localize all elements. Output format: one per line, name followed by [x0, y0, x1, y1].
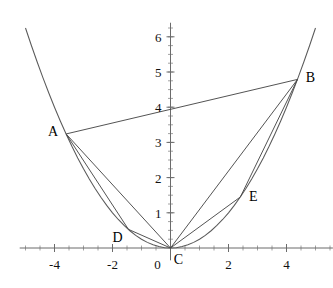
y-axis-tick-labels: 123456	[155, 30, 162, 221]
point-label-d: D	[112, 230, 122, 245]
x-tick-label: -2	[107, 257, 118, 272]
x-tick-label: 2	[225, 257, 232, 272]
segment-ec	[171, 197, 241, 248]
segment-be	[240, 79, 297, 197]
y-tick-label: 5	[155, 65, 162, 80]
y-tick-label: 6	[155, 30, 162, 45]
parabola-figure: -4-2024 123456 ABCDE	[0, 0, 333, 288]
point-label-b: B	[306, 70, 315, 85]
point-label-a: A	[48, 124, 59, 139]
segment-dc	[128, 229, 170, 248]
x-axis-tick-labels: -4-2024	[49, 257, 290, 272]
chord-segments	[66, 79, 297, 248]
point-label-c: C	[174, 252, 183, 267]
point-label-e: E	[249, 189, 258, 204]
y-tick-label: 1	[155, 206, 162, 221]
plot-canvas: -4-2024 123456 ABCDE	[0, 0, 333, 288]
x-tick-label: 4	[283, 257, 290, 272]
x-tick-label: -4	[49, 257, 60, 272]
x-tick-label: 0	[154, 257, 161, 272]
y-tick-label: 4	[155, 100, 162, 115]
point-labels: ABCDE	[48, 70, 315, 267]
y-tick-label: 2	[155, 171, 162, 186]
y-tick-label: 3	[155, 135, 162, 150]
segment-ad	[66, 134, 128, 229]
